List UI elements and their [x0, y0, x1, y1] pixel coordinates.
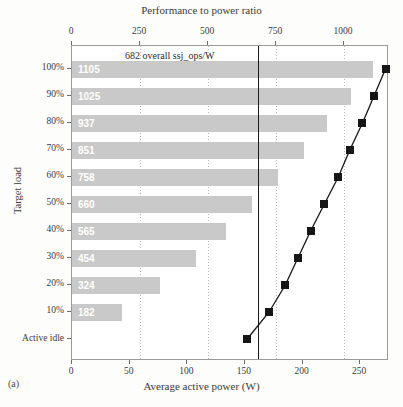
data-point-marker	[307, 227, 315, 235]
data-point-marker	[334, 173, 342, 181]
top-axis-tick-label: 0	[69, 26, 74, 36]
data-point-marker	[243, 335, 251, 343]
y-tick	[67, 176, 71, 177]
bottom-axis-tick-label: 250	[352, 366, 366, 376]
y-tick-label: 70%	[47, 143, 64, 153]
bottom-axis-tick	[359, 360, 360, 364]
data-point-marker	[370, 92, 378, 100]
y-tick-label: Active idle	[20, 333, 64, 344]
y-tick-label: 100%	[42, 62, 64, 72]
power-line	[72, 46, 389, 361]
bottom-axis-tick	[129, 360, 130, 364]
bottom-axis-tick-label: 50	[124, 366, 134, 376]
y-tick	[67, 95, 71, 96]
data-point-marker	[320, 200, 328, 208]
y-tick-label: 60%	[47, 170, 64, 180]
y-tick-label: 30%	[47, 251, 64, 261]
top-axis-tick	[71, 41, 72, 45]
y-tick	[67, 68, 71, 69]
bottom-axis-tick-label: 150	[237, 366, 251, 376]
y-tick-label: 20%	[47, 278, 64, 288]
plot-area: 11051025937851758660565454324182	[71, 45, 388, 360]
top-axis-tick-label: 250	[132, 26, 146, 36]
bottom-axis-tick-label: 0	[69, 366, 74, 376]
top-axis-tick	[343, 41, 344, 45]
bottom-axis-tick	[71, 360, 72, 364]
y-axis-title: Target load	[12, 146, 23, 236]
y-tick	[67, 257, 71, 258]
panel-label: (a)	[8, 378, 19, 389]
data-point-marker	[358, 119, 366, 127]
bottom-axis-tick	[302, 360, 303, 364]
bottom-axis-title: Average active power (W)	[0, 380, 403, 392]
reference-line-annotation: 682 overall ssj_ops/W	[85, 50, 255, 61]
y-tick	[67, 311, 71, 312]
data-point-marker	[281, 281, 289, 289]
y-tick	[67, 230, 71, 231]
y-tick	[67, 122, 71, 123]
y-tick-label: 80%	[47, 116, 64, 126]
bottom-axis-tick	[244, 360, 245, 364]
bottom-axis-tick-label: 100	[179, 366, 193, 376]
top-axis-tick-label: 750	[268, 26, 282, 36]
data-point-marker	[294, 254, 302, 262]
top-axis-title: Performance to power ratio	[0, 4, 403, 16]
bottom-axis-tick-label: 200	[294, 366, 308, 376]
y-tick-label: 10%	[47, 305, 64, 315]
data-point-marker	[382, 65, 390, 73]
y-tick-label: 90%	[47, 89, 64, 99]
y-tick	[67, 338, 71, 339]
top-axis-tick	[139, 41, 140, 45]
top-axis-tick-label: 500	[200, 26, 214, 36]
top-axis-tick	[207, 41, 208, 45]
bottom-axis-tick	[186, 360, 187, 364]
top-axis-tick	[275, 41, 276, 45]
chart-figure: Performance to power ratio Target load 1…	[0, 0, 403, 407]
y-tick-label: 40%	[47, 224, 64, 234]
data-point-marker	[265, 308, 273, 316]
data-point-marker	[346, 146, 354, 154]
y-tick	[67, 284, 71, 285]
top-axis-tick-label: 1000	[334, 26, 353, 36]
y-tick	[67, 149, 71, 150]
y-tick	[67, 203, 71, 204]
y-tick-label: 50%	[47, 197, 64, 207]
